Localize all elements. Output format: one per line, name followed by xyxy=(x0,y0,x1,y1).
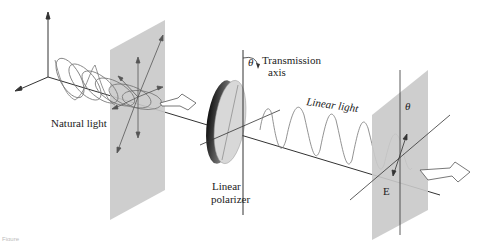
linear-light-label: Linear light xyxy=(305,95,360,114)
figure-caption: Figure xyxy=(2,236,20,241)
linear-polarizer-label-line1: Linear xyxy=(212,180,241,192)
coordinate-axes xyxy=(15,12,50,91)
light-direction-arrow-left xyxy=(160,94,196,110)
theta-panel-label: θ xyxy=(405,100,411,112)
natural-light-label: Natural light xyxy=(51,117,107,129)
polarization-diagram: Natural light θ Transmission axis Linear… xyxy=(0,0,481,241)
e-field-label: E xyxy=(383,185,390,197)
transmission-axis-label-line1: Transmission xyxy=(262,54,321,66)
transmission-axis-label-line2: axis xyxy=(268,66,286,78)
theta-polarizer-label: θ xyxy=(248,56,254,68)
linear-polarizer-label-line2: polarizer xyxy=(211,193,250,205)
